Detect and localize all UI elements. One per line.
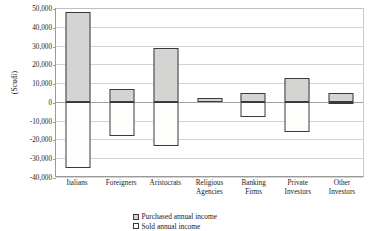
y-axis-tick-label: -30,000 bbox=[30, 155, 52, 163]
bar-group-aristocrats bbox=[144, 8, 188, 176]
y-axis-tick-label: -40,000 bbox=[30, 174, 52, 182]
bar-group-religious-agencies bbox=[188, 8, 232, 176]
bar-segment-purchased bbox=[285, 78, 310, 101]
bar-group-other-investors bbox=[319, 8, 363, 176]
bar-group-italians bbox=[56, 8, 100, 176]
y-axis-tick-label: -20,000 bbox=[30, 136, 52, 144]
bar-chart: (Scudi) 50,00040,00030,00020,00010,0000-… bbox=[0, 0, 368, 231]
x-axis-label: BankingFirms bbox=[232, 179, 276, 197]
x-axis-label: OtherInvestors bbox=[320, 179, 364, 197]
y-axis-tick-label: -10,000 bbox=[30, 118, 52, 126]
legend-swatch-sold bbox=[133, 223, 139, 229]
x-axis-label: ReligiousAgencies bbox=[187, 179, 231, 197]
bar-segment-purchased bbox=[153, 48, 178, 102]
x-axis-label: Aristocrats bbox=[143, 179, 187, 197]
bar-segment-sold bbox=[65, 102, 90, 168]
x-axis-label: Italians bbox=[55, 179, 99, 197]
x-axis-category-labels: ItaliansForeignersAristocratsReligiousAg… bbox=[55, 179, 364, 197]
gridline: -40,000 bbox=[56, 177, 363, 178]
y-axis-tick-label: 20,000 bbox=[32, 61, 52, 69]
bar-segment-purchased bbox=[241, 93, 266, 102]
y-axis-tick-label: 50,000 bbox=[32, 5, 52, 13]
bar-segment-sold bbox=[285, 102, 310, 132]
x-axis-label: PrivateInvestors bbox=[276, 179, 320, 197]
legend-label: Purchased annual income bbox=[142, 212, 218, 222]
y-axis-tick-label: 0 bbox=[48, 99, 52, 107]
bar-segment-purchased bbox=[109, 89, 134, 102]
bar-segment-purchased bbox=[65, 12, 90, 102]
bar-segment-sold bbox=[153, 102, 178, 146]
y-axis-tick-label: 40,000 bbox=[32, 24, 52, 32]
chart-legend: Purchased annual incomeSold annual incom… bbox=[133, 212, 217, 231]
bar-group-private-investors bbox=[275, 8, 319, 176]
y-axis-tick-label: 10,000 bbox=[32, 80, 52, 88]
legend-swatch-purchased bbox=[133, 214, 139, 220]
bar-segment-purchased bbox=[197, 98, 222, 102]
x-axis-label: Foreigners bbox=[99, 179, 143, 197]
bar-segment-sold bbox=[241, 102, 266, 117]
bar-group-banking-firms bbox=[231, 8, 275, 176]
legend-label: Sold annual income bbox=[142, 222, 201, 231]
legend-item: Purchased annual income bbox=[133, 212, 217, 222]
plot-area: 50,00040,00030,00020,00010,0000-10,000-2… bbox=[55, 8, 364, 177]
bars-group bbox=[56, 8, 363, 176]
bar-group-foreigners bbox=[100, 8, 144, 176]
legend-item: Sold annual income bbox=[133, 222, 217, 231]
bar-segment-sold bbox=[329, 102, 354, 104]
bar-segment-purchased bbox=[329, 93, 354, 102]
bar-segment-sold bbox=[109, 102, 134, 136]
y-axis-title: (Scudi) bbox=[10, 43, 19, 123]
y-axis-tick-label: 30,000 bbox=[32, 43, 52, 51]
